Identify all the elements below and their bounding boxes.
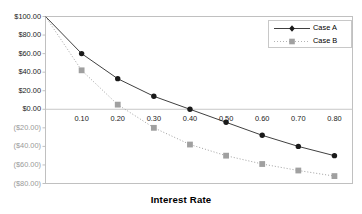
x-tick-label: 0.40: [170, 115, 210, 122]
x-tick-label: 0.50: [206, 115, 246, 122]
legend-swatch-case-a: [273, 22, 311, 35]
y-tick-label: $20.00: [0, 87, 41, 94]
x-tick-label: 0.70: [278, 115, 318, 122]
legend-label-case-b: Case B: [313, 37, 337, 44]
y-tick-label: ($40.00): [0, 142, 41, 149]
x-tick-label: 0.20: [98, 115, 138, 122]
data-point-marker[interactable]: [260, 133, 265, 138]
y-tick-label: $40.00: [0, 68, 41, 75]
chart-container: $100.00$80.00$60.00$40.00$20.00$0.00($20…: [0, 0, 362, 214]
data-point-marker[interactable]: [295, 168, 301, 174]
chart-legend: Case A Case B: [268, 20, 352, 48]
data-point-marker[interactable]: [332, 173, 338, 179]
x-tick-label: 0.10: [62, 115, 102, 122]
x-tick-label: 0.30: [134, 115, 174, 122]
y-tick-label: ($60.00): [0, 161, 41, 168]
data-point-marker[interactable]: [296, 144, 301, 149]
y-tick-label: $60.00: [0, 50, 41, 57]
y-tick-label: $100.00: [0, 13, 41, 20]
data-point-marker[interactable]: [115, 76, 120, 81]
legend-swatch-case-b: [273, 35, 311, 48]
data-point-marker[interactable]: [259, 161, 265, 167]
y-tick-label: ($80.00): [0, 180, 41, 187]
data-point-marker[interactable]: [332, 153, 337, 158]
data-point-marker[interactable]: [79, 51, 84, 56]
data-point-marker[interactable]: [79, 67, 85, 73]
data-point-marker[interactable]: [115, 102, 121, 108]
y-tick-label: ($20.00): [0, 124, 41, 131]
legend-item-case-a[interactable]: Case A: [269, 22, 353, 35]
data-point-marker[interactable]: [187, 142, 193, 148]
legend-item-case-b[interactable]: Case B: [269, 35, 353, 48]
data-point-marker[interactable]: [187, 107, 192, 112]
legend-label-case-a: Case A: [313, 24, 337, 31]
y-tick-label: $0.00: [0, 105, 41, 112]
data-point-marker[interactable]: [223, 153, 229, 159]
data-point-marker[interactable]: [151, 94, 156, 99]
x-axis-title: Interest Rate: [0, 194, 362, 205]
data-point-marker[interactable]: [151, 125, 157, 131]
y-tick-label: $80.00: [0, 31, 41, 38]
x-tick-label: 0.80: [314, 115, 354, 122]
x-tick-label: 0.60: [242, 115, 282, 122]
